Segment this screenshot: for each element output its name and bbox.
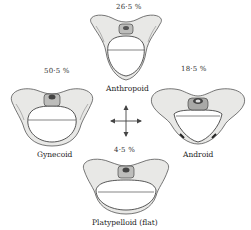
gynecoid-label: Gynecoid (37, 150, 72, 159)
android-label: Android (183, 150, 213, 159)
anthropoid-pelvis-illustration (86, 10, 166, 82)
gynecoid-pelvis-illustration (8, 82, 96, 148)
android-pelvis-illustration (148, 82, 248, 146)
platypelloid-label: Platypelloid (flat) (92, 218, 158, 227)
anthropoid-label: Anthropoid (106, 84, 149, 93)
four-direction-arrows-icon (108, 103, 144, 139)
pelvis-types-diagram: 26·5 % Anthropoid 50·5 % Gynecoid 18·5 %… (0, 0, 251, 230)
platypelloid-pelvis-illustration (80, 154, 172, 216)
platypelloid-percentage: 4·5 % (114, 146, 135, 154)
gynecoid-percentage: 50·5 % (44, 67, 70, 75)
android-percentage: 18·5 % (181, 65, 207, 73)
